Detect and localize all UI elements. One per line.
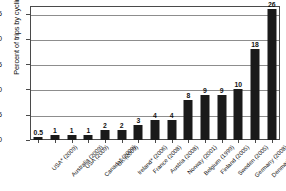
bar-group: 2 [97,6,114,140]
x-tick-mark [55,140,56,143]
bar-chart: Percent of trips by cycling 0510152025 0… [0,0,286,191]
bar-value-label: 18 [251,41,259,48]
bar-group: 4 [147,6,164,140]
bar-value-label: 4 [170,112,174,119]
bar [167,120,176,140]
bar-value-label: 8 [186,92,190,99]
bar [117,130,126,140]
bar-value-label: 4 [153,112,157,119]
bar [217,95,226,141]
bar-value-label: 26 [268,1,276,8]
x-tick-mark [105,140,106,143]
bar-value-label: 1 [70,127,74,134]
bar-value-label: 10 [235,81,243,88]
bar-group: 3 [130,6,147,140]
x-tick-mark [172,140,173,143]
y-tick-label: 10 [0,86,2,93]
x-tick-mark [72,140,73,143]
x-tick-mark [88,140,89,143]
bar-value-label: 9 [220,87,224,94]
bar-value-label: 1 [53,127,57,134]
bar-group: 2 [113,6,130,140]
bar-value-label: 2 [103,122,107,129]
bar-group: 26 [263,6,280,140]
bar-group: 0.5 [30,6,47,140]
y-tick-label: 5 [0,111,2,118]
bar [234,89,243,140]
x-tick-mark [255,140,256,143]
bar [184,100,193,140]
bar-value-label: 2 [120,122,124,129]
y-tick-label: 20 [0,35,2,42]
bar-group: 1 [63,6,80,140]
bar-group: 1 [80,6,97,140]
bar-group: 4 [163,6,180,140]
x-tick-mark [238,140,239,143]
bar-group: 9 [213,6,230,140]
y-tick-mark [26,140,30,141]
bar-group: 1 [47,6,64,140]
x-tick-mark [155,140,156,143]
bar-value-label: 0.5 [34,129,43,136]
bar [250,49,259,140]
bar-group: 8 [180,6,197,140]
bar-group: 10 [230,6,247,140]
x-tick-mark [188,140,189,143]
bar-group: 18 [247,6,264,140]
bar [267,9,276,140]
bar-value-label: 9 [203,87,207,94]
bar-value-label: 1 [86,127,90,134]
y-axis-title: Percent of trips by cycling [11,0,23,89]
x-tick-mark [138,140,139,143]
bars-layer: 0.511122344899101826 [30,6,280,140]
y-tick-label: 25 [0,10,2,17]
bar [100,130,109,140]
bar-value-label: 3 [136,117,140,124]
y-tick-label: 0 [0,136,2,143]
x-tick-mark [38,140,39,143]
bar [150,120,159,140]
y-tick-label: 15 [0,61,2,68]
x-tick-mark [122,140,123,143]
bar [134,125,143,140]
bar [200,95,209,141]
bar-group: 9 [197,6,214,140]
x-tick-mark [222,140,223,143]
x-tick-mark [272,140,273,143]
x-tick-mark [205,140,206,143]
